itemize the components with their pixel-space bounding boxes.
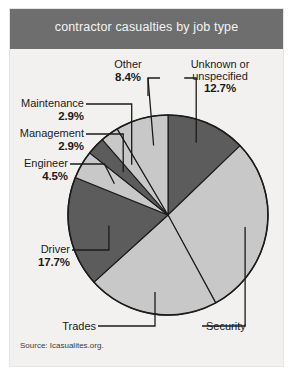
label-maintenance-percent: 2.9% bbox=[10, 110, 84, 122]
label-management: Management 2.9% bbox=[8, 128, 84, 152]
pie-chart bbox=[0, 0, 293, 375]
label-engineer: Engineer 4.5% bbox=[12, 158, 68, 182]
label-other: Other 8.4% bbox=[104, 59, 152, 83]
label-unknown-name-line1: Unknown or bbox=[176, 59, 264, 71]
label-engineer-percent: 4.5% bbox=[12, 170, 68, 182]
label-other-name: Other bbox=[104, 59, 152, 71]
label-management-name: Management bbox=[8, 128, 84, 140]
label-unknown: Unknown or unspecified 12.7% bbox=[176, 59, 264, 95]
label-trades: Trades bbox=[50, 321, 96, 333]
pie-slices bbox=[68, 115, 268, 315]
label-security-name: Security bbox=[206, 321, 266, 333]
label-trades-name: Trades bbox=[50, 321, 96, 333]
label-management-percent: 2.9% bbox=[8, 140, 84, 152]
label-engineer-name: Engineer bbox=[12, 158, 68, 170]
label-unknown-percent: 12.7% bbox=[176, 82, 264, 94]
label-unknown-name-line2: unspecified bbox=[176, 71, 264, 83]
figure-root: contractor casualties by job type Other … bbox=[0, 0, 293, 375]
label-driver: Driver 17.7% bbox=[14, 244, 70, 268]
label-security: Security bbox=[206, 321, 266, 333]
source-note: Source: Icasualites.org. bbox=[20, 341, 104, 350]
label-driver-name: Driver bbox=[14, 244, 70, 256]
label-maintenance-name: Maintenance bbox=[10, 98, 84, 110]
label-maintenance: Maintenance 2.9% bbox=[10, 98, 84, 122]
label-other-percent: 8.4% bbox=[104, 71, 152, 83]
label-driver-percent: 17.7% bbox=[14, 256, 70, 268]
